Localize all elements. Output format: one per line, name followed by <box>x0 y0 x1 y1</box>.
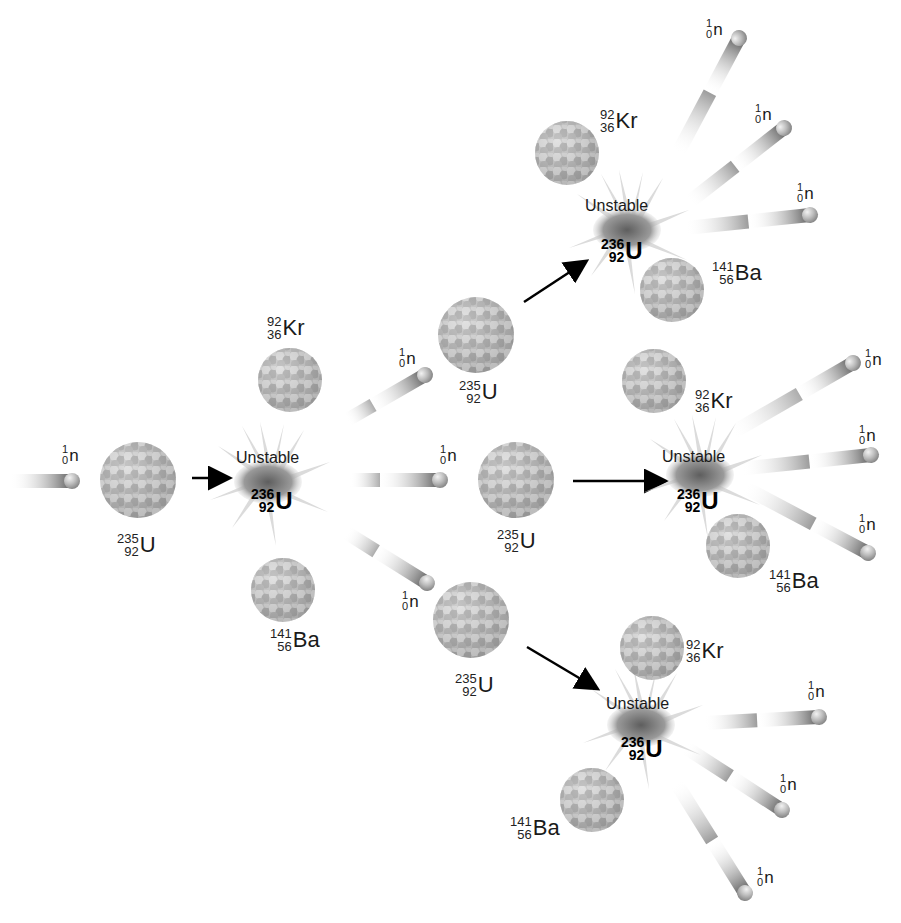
stage-1 <box>10 348 448 622</box>
uranium-235-label: 23592U <box>455 672 494 698</box>
neutron-label: 10n <box>706 18 723 40</box>
uranium-235-nucleus <box>433 582 509 658</box>
uranium-235-label: 23592U <box>459 379 498 405</box>
emitted-neutron <box>343 364 436 427</box>
emitted-neutron <box>728 352 864 440</box>
uranium-235-nucleus <box>478 442 554 518</box>
barium-141-label: 14156Ba <box>510 815 560 841</box>
krypton-92-label: 9236Kr <box>600 108 637 134</box>
krypton-92-nucleus <box>620 616 684 680</box>
uranium-236-label: 23692U <box>251 488 293 514</box>
krypton-92-label: 9236Kr <box>695 388 732 414</box>
neutron-label: 10n <box>780 773 797 795</box>
krypton-92-label: 9236Kr <box>267 315 304 341</box>
krypton-92-nucleus <box>622 349 686 413</box>
emitted-neutron <box>669 779 756 905</box>
neutron-label: 10n <box>859 513 876 535</box>
neutron-label: 10n <box>755 103 772 125</box>
krypton-92-nucleus <box>258 348 322 412</box>
uranium-235-nucleus <box>100 442 176 518</box>
neutron-label: 10n <box>859 424 876 446</box>
emitted-neutron <box>342 526 438 594</box>
barium-141-nucleus <box>251 558 315 622</box>
barium-141-nucleus <box>706 514 770 578</box>
emitted-neutron <box>350 472 448 488</box>
krypton-92-nucleus <box>535 121 599 185</box>
unstable-label: Unstable <box>606 696 669 712</box>
unstable-label: Unstable <box>236 450 299 466</box>
barium-141-nucleus <box>640 258 704 322</box>
neutron-label: 10n <box>399 347 416 369</box>
neutron-label: 10n <box>402 590 419 612</box>
uranium-236-label: 23692U <box>621 736 663 762</box>
barium-141-label: 14156Ba <box>712 260 762 286</box>
fission-diagram: 10n 23592U Unstable 23692U 9236Kr 14156B… <box>0 0 901 923</box>
barium-141-label: 14156Ba <box>270 627 320 653</box>
emitted-neutron <box>704 709 828 731</box>
neutron-label: 10n <box>440 444 457 466</box>
neutron-label: 10n <box>62 444 79 466</box>
emitted-neutron <box>685 206 819 236</box>
barium-141-nucleus <box>560 768 624 832</box>
neutron-label: 10n <box>797 182 814 204</box>
neutron-label: 10n <box>865 348 882 370</box>
krypton-92-label: 9236Kr <box>686 638 723 664</box>
incoming-neutron <box>10 473 80 489</box>
barium-141-label: 14156Ba <box>769 568 819 594</box>
uranium-235-label: 23592U <box>497 528 536 554</box>
neutron-label: 10n <box>808 680 825 702</box>
uranium-235-nucleus <box>438 297 514 373</box>
unstable-label: Unstable <box>585 198 648 214</box>
reaction-arrow <box>527 647 596 688</box>
emitted-neutron <box>685 117 796 208</box>
emitted-neutron <box>741 446 880 476</box>
reaction-arrow <box>524 262 585 302</box>
emitted-neutron <box>671 27 750 156</box>
uranium-236-label: 23692U <box>677 488 719 514</box>
unstable-burst <box>210 422 330 546</box>
neutron-label: 10n <box>757 866 774 888</box>
uranium-236-label: 23692U <box>601 238 643 264</box>
uranium-235-label: 23592U <box>117 532 156 558</box>
unstable-label: Unstable <box>662 449 725 465</box>
